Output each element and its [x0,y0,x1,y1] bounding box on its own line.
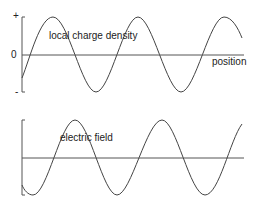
charge-density-title: local charge density [49,31,137,41]
plus-label: + [13,11,19,21]
position-axis-label: position [212,57,246,67]
minus-label: - [15,87,18,97]
zero-label: 0 [11,50,17,60]
electric-field-title: electric field [60,133,113,143]
